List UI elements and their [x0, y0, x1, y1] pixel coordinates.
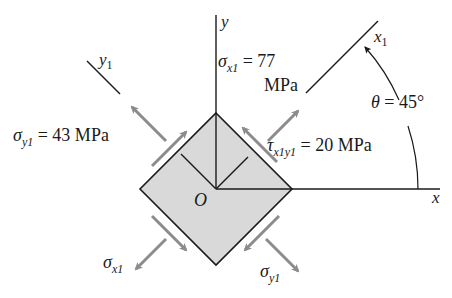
sigma-x1-value-label: σx1 = 77 [218, 51, 275, 75]
x1-axis-line [306, 21, 378, 93]
theta-label: θ = 45° [371, 92, 424, 112]
sigma-y1-value-label: σy1 = 43 MPa [13, 125, 109, 149]
sigma-y1-bottom-label: σy1 [260, 261, 280, 285]
origin-label: O [194, 190, 207, 210]
stress-element-diagram: y x x1 y1 O σx1 = 77 MPa σy1 = 43 MPa τx… [0, 0, 452, 298]
y1-axis-label: y1 [97, 50, 113, 72]
sigma-x1-bottom-label: σx1 [103, 252, 123, 276]
tau-x1y1-value-label: τx1y1 = 20 MPa [267, 135, 372, 159]
sigma-y1-arrow-lower-right [266, 239, 298, 271]
sigma-y1-arrow-upper-left [132, 107, 166, 141]
x1-axis-label: x1 [373, 27, 388, 49]
x-axis-label: x [431, 188, 440, 207]
sigma-x1-arrow-lower-left [136, 239, 166, 269]
sigma-x1-unit-label: MPa [264, 75, 298, 95]
y-axis-label: y [219, 12, 229, 31]
theta-arc [408, 126, 418, 189]
